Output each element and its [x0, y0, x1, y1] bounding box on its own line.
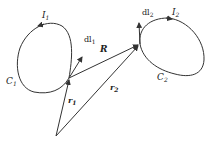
loop-c1	[17, 23, 71, 93]
dl2-vector	[139, 23, 140, 44]
r1-vector	[56, 80, 69, 136]
label-i1: I1	[41, 10, 49, 21]
label-r2: r2	[110, 82, 118, 93]
label-r1: r1	[68, 95, 76, 106]
label-dl1: dl1	[84, 35, 96, 45]
current-loops-diagram: I1 dl1 C1 dl2 I2 C2 R r1 r2	[0, 0, 214, 145]
label-r: R	[99, 44, 108, 54]
label-c2: C2	[157, 72, 168, 83]
loop-c2	[140, 18, 204, 76]
label-i2: I2	[171, 7, 180, 18]
label-c1: C1	[6, 76, 17, 87]
label-dl2: dl2	[142, 8, 154, 18]
r2-vector	[56, 46, 138, 136]
